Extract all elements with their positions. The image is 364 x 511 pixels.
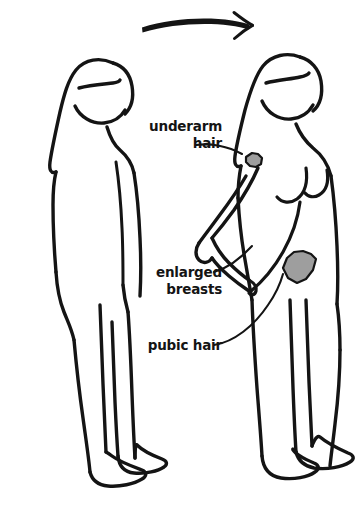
label-pubic-hair-line1: pubic hair	[148, 337, 223, 353]
label-enlarged-breasts-line2: breasts	[166, 281, 222, 297]
puberty-diagram: underarm hair enlarged breasts pubic hai…	[0, 0, 364, 511]
diagram-canvas: underarm hair enlarged breasts pubic hai…	[0, 0, 364, 511]
label-underarm-hair-line1: underarm	[149, 118, 222, 134]
label-underarm-hair-line2: hair	[193, 135, 223, 151]
underarm-hair-patch	[246, 153, 262, 167]
label-enlarged-breasts-line1: enlarged	[156, 264, 222, 280]
